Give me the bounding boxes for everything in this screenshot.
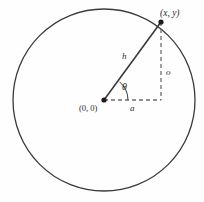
xy-point-marker: [158, 19, 163, 24]
hypotenuse-label: h: [122, 52, 127, 61]
point-xy-label: (x, y): [160, 9, 180, 19]
origin-label: (0, 0): [79, 104, 97, 113]
origin-point-marker: [101, 97, 106, 102]
opposite-side-label: o: [166, 68, 171, 77]
adjacent-side-label: a: [130, 104, 135, 113]
diagram-canvas: [0, 0, 204, 202]
theta-angle-label: θ: [122, 82, 127, 92]
trigonometry-circle-diagram: (x, y) (0, 0) h o a θ: [0, 0, 204, 202]
